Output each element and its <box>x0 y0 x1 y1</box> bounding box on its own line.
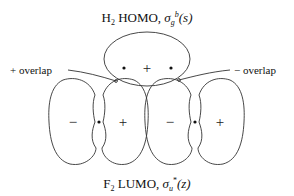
title-arg: (z) <box>177 176 191 191</box>
f2-lobe-3-sign: − <box>166 114 174 130</box>
title-f: F <box>103 176 110 191</box>
f2-nucleus-left <box>97 120 100 123</box>
title-sigma-sub: u <box>169 184 173 193</box>
orbital-diagram: + − + − + <box>0 0 294 196</box>
f2-nucleus-right <box>193 120 196 123</box>
h2-sign-plus: + <box>143 60 151 76</box>
f2-lobe-4-sign: + <box>216 114 224 130</box>
f2-lobe-2-sign: + <box>119 114 127 130</box>
f2-lobe-1-sign: − <box>69 114 77 130</box>
h2-nucleus-left <box>122 66 125 69</box>
title-lumo-text: LUMO, <box>115 176 163 191</box>
f2-lumo-title: F2 LUMO, σu*(z) <box>0 173 294 196</box>
h2-homo-orbital <box>104 32 190 86</box>
h2-nucleus-right <box>169 66 172 69</box>
